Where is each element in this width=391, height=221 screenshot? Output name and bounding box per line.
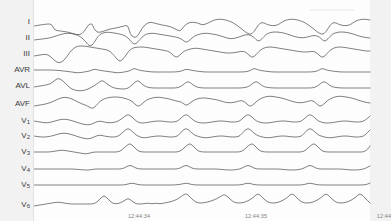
lead-label-gutter: IIIIIIAVRAVLAVFV1V2V3V4V5V6 (0, 0, 33, 221)
lead-label-text: V (21, 200, 26, 209)
lead-label-v5: V5 (0, 181, 30, 189)
ecg-trace-ii (34, 32, 370, 46)
ecg-trace-v1 (34, 115, 370, 125)
ecg-trace-v4 (34, 166, 370, 171)
lead-label-text: II (26, 33, 30, 42)
lead-label-v4: V4 (0, 165, 30, 173)
lead-label-v2: V2 (0, 132, 30, 140)
lead-label-v3: V3 (0, 148, 30, 156)
ecg-trace-i (34, 19, 370, 37)
lead-label-avl: AVL (0, 82, 30, 90)
lead-label-avf: AVF (0, 100, 30, 108)
ecg-trace-avl (34, 79, 370, 91)
lead-label-v6: V6 (0, 201, 30, 209)
lead-label-subscript: 1 (27, 119, 30, 125)
lead-label-v1: V1 (0, 117, 30, 125)
lead-label-i: I (0, 18, 30, 26)
ecg-trace-area[interactable]: 12:44:3412:44:3512:44 (33, 0, 370, 221)
lead-label-avr: AVR (0, 66, 30, 74)
lead-label-text: AVF (15, 99, 30, 108)
ecg-trace-v3 (34, 144, 370, 154)
lead-label-text: I (28, 17, 30, 26)
lead-label-text: AVR (14, 65, 30, 74)
ecg-trace-v5 (34, 183, 370, 185)
ecg-trace-avr (34, 69, 370, 73)
timestamp-label: 12:44 (377, 213, 391, 219)
ecg-trace-iii (34, 46, 370, 63)
lead-label-text: V (21, 180, 26, 189)
lead-label-text: V (21, 131, 26, 140)
timestamp-label: 12:44:34 (128, 213, 150, 219)
timestamp-label: 12:44:35 (245, 213, 267, 219)
ecg-trace-v6 (34, 194, 370, 206)
lead-label-text: V (21, 147, 26, 156)
lead-label-subscript: 6 (27, 203, 30, 209)
lead-label-text: V (21, 164, 26, 173)
lead-label-text: V (21, 116, 26, 125)
lead-label-text: AVL (15, 81, 30, 90)
lead-label-subscript: 5 (27, 183, 30, 189)
lead-label-iii: III (0, 50, 30, 58)
lead-label-text: III (23, 49, 30, 58)
lead-label-ii: II (0, 34, 30, 42)
lead-label-subscript: 3 (27, 150, 30, 156)
lead-label-subscript: 4 (27, 167, 30, 173)
ecg-trace-avf (34, 96, 370, 108)
ecg-trace-svg (34, 0, 371, 221)
lead-label-subscript: 2 (27, 134, 30, 140)
ecg-trace-v2 (34, 129, 370, 139)
